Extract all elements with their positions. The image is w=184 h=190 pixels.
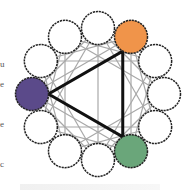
swatch-empty: [24, 111, 57, 144]
swatch-empty: [24, 45, 57, 78]
side-text-fragment: c: [0, 160, 8, 169]
swatch-green: [115, 135, 148, 168]
swatch-orange: [115, 20, 148, 53]
swatch-purple: [16, 78, 49, 111]
side-text-fragment: u: [0, 60, 8, 69]
swatch-empty: [49, 135, 82, 168]
side-text-fragment: e: [0, 80, 8, 89]
swatch-empty: [148, 78, 181, 111]
swatch-empty: [139, 45, 172, 78]
swatch-empty: [82, 144, 115, 177]
triadic-color-wheel: [0, 0, 184, 190]
swatch-empty: [139, 111, 172, 144]
cropped-caption: [20, 184, 160, 190]
swatch-empty: [49, 20, 82, 53]
swatch-empty: [82, 12, 115, 45]
side-text-fragment: e: [0, 120, 8, 129]
